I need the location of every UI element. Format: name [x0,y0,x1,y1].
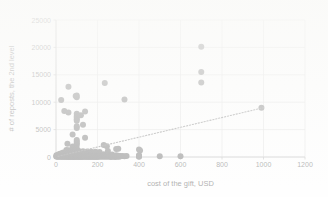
data-point [70,132,76,138]
data-point [65,84,71,90]
data-point [80,122,86,128]
x-tick-label: 1200 [297,161,313,168]
data-point [73,93,79,99]
y-tick-label: 5000 [35,126,51,133]
data-point [198,69,204,75]
x-tick-labels-group: 020040060080010001200 [54,161,313,168]
data-point [65,110,71,116]
y-tick-label: 25000 [32,17,52,24]
chart-canvas: 0500010000150002000025000 02004006008001… [0,0,328,197]
x-tick-label: 800 [216,161,228,168]
data-point [115,146,121,152]
data-point [58,97,64,103]
y-tick-label: 0 [47,154,51,161]
data-point [102,80,108,86]
data-point [198,79,204,85]
x-tick-label: 200 [92,161,104,168]
y-tick-label: 20000 [32,44,52,51]
data-point [178,153,184,159]
data-point [157,153,163,159]
data-point [137,147,143,153]
data-point [82,135,88,141]
x-tick-label: 400 [133,161,145,168]
data-point [74,118,80,124]
x-tick-label: 0 [54,161,58,168]
y-tick-label: 10000 [32,99,52,106]
y-tick-labels-group: 0500010000150002000025000 [32,17,52,161]
x-tick-label: 600 [175,161,187,168]
data-point [64,141,70,147]
data-point [198,44,204,50]
scatter-chart: 0500010000150002000025000 02004006008001… [0,0,328,197]
data-point [136,154,142,160]
axes-group [54,20,306,160]
y-axis-title: # of reposts, the 2nd level [7,45,16,131]
gridlines-group [56,20,305,157]
x-tick-label: 1000 [256,161,272,168]
data-point [74,125,80,131]
trendline [58,108,263,157]
y-tick-label: 15000 [32,71,52,78]
data-point [78,112,84,118]
data-point [124,153,130,159]
trendline-group [58,108,263,157]
data-point [121,96,127,102]
x-axis-title: cost of the gift, USD [147,179,214,188]
data-point [116,154,122,160]
